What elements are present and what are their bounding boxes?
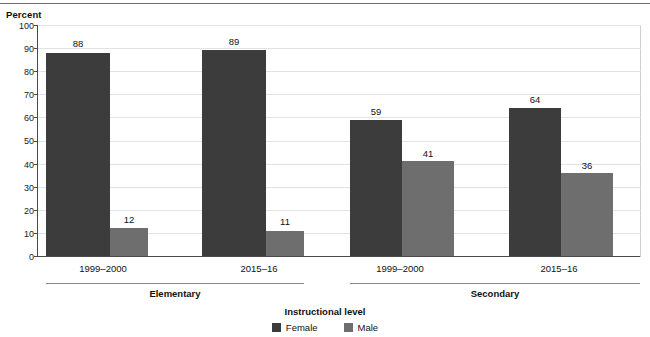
y-tick-label-0: 0 — [12, 252, 34, 262]
bar-elementary-1999-2000-female[interactable] — [46, 53, 110, 256]
bar-elementary-2015-16-male[interactable] — [266, 231, 304, 256]
x-tick-label-elementary-2015-16: 2015–16 — [194, 263, 324, 274]
bar-secondary-1999-2000-male[interactable] — [402, 161, 454, 256]
bar-elementary-2015-16-female[interactable] — [202, 50, 266, 256]
bar-value-secondary-2015-16-female: 64 — [509, 94, 561, 105]
y-tick-mark-100 — [34, 25, 37, 26]
legend-item-female[interactable]: Female — [272, 322, 318, 333]
legend: Female Male — [0, 322, 650, 333]
legend-item-male[interactable]: Male — [344, 322, 379, 333]
y-tick-label-50: 50 — [12, 136, 34, 146]
legend-label-male: Male — [358, 322, 379, 333]
x-tick-label-secondary-2015-16: 2015–16 — [494, 263, 624, 274]
y-tick-label-100: 100 — [12, 21, 34, 31]
bar-secondary-2015-16-male[interactable] — [561, 173, 613, 256]
y-tick-label-40: 40 — [12, 160, 34, 170]
y-tick-mark-60 — [34, 117, 37, 118]
y-tick-label-30: 30 — [12, 183, 34, 193]
y-tick-label-20: 20 — [12, 206, 34, 216]
group-label-elementary: Elementary — [46, 288, 304, 299]
y-tick-mark-80 — [34, 71, 37, 72]
x-axis-line — [37, 256, 641, 257]
group-rule-elementary — [46, 283, 304, 284]
y-tick-mark-20 — [34, 210, 37, 211]
group-rule-secondary — [350, 283, 640, 284]
gridline-80 — [38, 71, 641, 72]
figure-top-rule — [0, 3, 650, 4]
y-tick-label-10: 10 — [12, 229, 34, 239]
y-tick-mark-40 — [34, 164, 37, 165]
y-tick-label-90: 90 — [12, 44, 34, 54]
y-axis-title: Percent — [6, 9, 42, 20]
gridline-90 — [38, 48, 641, 49]
y-tick-label-70: 70 — [12, 90, 34, 100]
x-tick-label-secondary-1999-2000: 1999–2000 — [335, 263, 465, 274]
y-tick-mark-0 — [34, 256, 37, 257]
x-tick-label-elementary-1999-2000: 1999–2000 — [38, 263, 168, 274]
bar-value-elementary-1999-2000-female: 88 — [46, 38, 110, 49]
y-tick-label-80: 80 — [12, 67, 34, 77]
x-axis-title: Instructional level — [0, 306, 650, 317]
y-tick-mark-30 — [34, 187, 37, 188]
bar-elementary-1999-2000-male[interactable] — [110, 228, 148, 256]
y-tick-mark-10 — [34, 233, 37, 234]
bar-value-elementary-2015-16-female: 89 — [202, 36, 266, 47]
y-tick-label-60: 60 — [12, 113, 34, 123]
bar-value-secondary-1999-2000-male: 41 — [402, 148, 454, 159]
bar-value-elementary-2015-16-male: 11 — [266, 216, 304, 227]
bar-value-elementary-1999-2000-male: 12 — [110, 214, 148, 225]
gridline-100 — [38, 25, 641, 26]
legend-swatch-female-icon — [272, 323, 281, 332]
legend-label-female: Female — [286, 322, 318, 333]
legend-swatch-male-icon — [344, 323, 353, 332]
bar-value-secondary-1999-2000-female: 59 — [350, 106, 402, 117]
bar-value-secondary-2015-16-male: 36 — [561, 160, 613, 171]
y-tick-mark-70 — [34, 94, 37, 95]
bar-secondary-1999-2000-female[interactable] — [350, 120, 402, 256]
bar-chart-figure: Percent 100 90 80 70 60 50 40 30 20 10 0 — [0, 0, 650, 337]
y-tick-mark-50 — [34, 141, 37, 142]
bar-secondary-2015-16-female[interactable] — [509, 108, 561, 256]
group-label-secondary: Secondary — [350, 288, 640, 299]
y-tick-mark-90 — [34, 48, 37, 49]
